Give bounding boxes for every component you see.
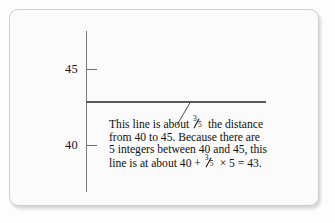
page-root: 45 40 This line is about 35 the distance…	[0, 0, 335, 223]
figure-card: 45 40 This line is about 35 the distance…	[9, 9, 319, 206]
fraction-three-fifths: 35	[193, 118, 204, 129]
vertical-axis	[86, 31, 87, 192]
caption-line-1-pre: This line is about	[109, 118, 192, 131]
caption-line-4-post: × 5 = 43.	[217, 157, 262, 170]
caption-text: This line is about 35 the distance from …	[109, 118, 275, 170]
fraction-denominator: 5	[198, 121, 202, 129]
fraction-denominator: 5	[210, 160, 214, 168]
fraction-three-fifths-2: 35	[205, 157, 216, 168]
caption-line-1: This line is about 35 the distance	[109, 118, 275, 132]
axis-tick-45	[87, 69, 97, 70]
caption-line-3: 5 integers between 40 and 45, this	[109, 144, 275, 157]
plot-area: 45 40	[10, 10, 319, 206]
caption-line-1-post: the distance	[205, 118, 263, 131]
axis-tick-40	[87, 145, 97, 146]
axis-tick-label-40: 40	[44, 138, 78, 153]
caption-line-4: line is at about 40 + 35 × 5 = 43.	[109, 157, 275, 171]
axis-tick-label-45: 45	[44, 62, 78, 77]
caption-line-4-pre: line is at about 40 +	[109, 157, 204, 170]
